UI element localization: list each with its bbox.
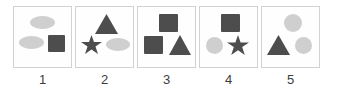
option-box-3[interactable] xyxy=(137,6,196,68)
light-circle-icon xyxy=(206,37,223,54)
dark-triangle-icon xyxy=(169,35,191,55)
option-box-5[interactable] xyxy=(261,6,320,68)
option-label-3: 3 xyxy=(137,72,196,88)
shape-option-diagram: 1 2 3 4 5 xyxy=(0,0,337,99)
light-ellipse-icon xyxy=(106,38,130,51)
option-boxes-row xyxy=(13,6,320,68)
option-box-2[interactable] xyxy=(75,6,134,68)
light-circle-icon xyxy=(295,37,312,54)
option-label-4: 4 xyxy=(199,72,258,88)
option-label-2: 2 xyxy=(75,72,134,88)
dark-square-icon xyxy=(48,35,65,52)
dark-star-icon xyxy=(227,35,249,56)
option-box-4[interactable] xyxy=(199,6,258,68)
option-label-5: 5 xyxy=(261,72,320,88)
option-box-1[interactable] xyxy=(13,6,72,68)
light-ellipse-icon xyxy=(19,36,44,49)
dark-star-icon xyxy=(81,35,102,55)
light-ellipse-icon xyxy=(30,16,55,29)
dark-triangle-icon xyxy=(267,35,290,55)
light-circle-icon xyxy=(284,14,302,32)
dark-square-icon xyxy=(221,14,240,32)
dark-square-icon xyxy=(159,14,178,32)
dark-square-icon xyxy=(144,36,163,54)
option-labels-row: 1 2 3 4 5 xyxy=(13,72,320,88)
option-label-1: 1 xyxy=(13,72,72,88)
dark-triangle-icon xyxy=(95,14,118,34)
